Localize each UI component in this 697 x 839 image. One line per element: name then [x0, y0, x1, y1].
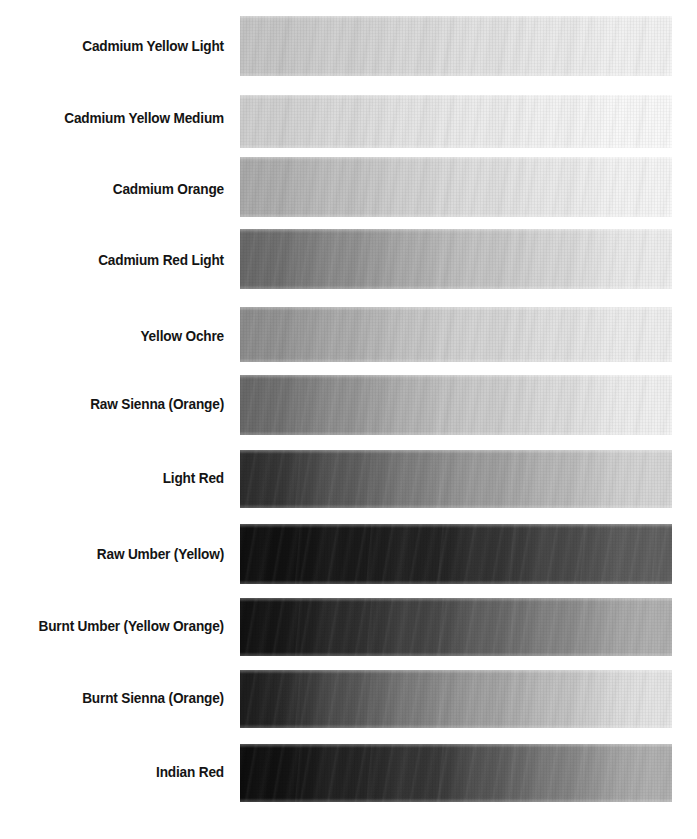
- pigment-label: Cadmium Yellow Medium: [27, 110, 224, 126]
- swatch-texture-edge: [240, 598, 672, 656]
- swatch-gradient: [240, 307, 672, 362]
- pigment-label: Raw Sienna (Orange): [27, 396, 224, 412]
- pigment-value-chart: Cadmium Yellow LightCadmium Yellow Mediu…: [0, 0, 697, 839]
- swatch-yellow-ochre: [240, 307, 672, 362]
- swatch-texture-edge: [240, 95, 672, 148]
- swatch-texture-edge: [240, 670, 672, 728]
- pigment-label: Burnt Umber (Yellow Orange): [27, 618, 224, 634]
- swatch-indian-red: [240, 744, 672, 802]
- swatch-raw-sienna-orange: [240, 375, 672, 435]
- swatch-burnt-umber-yellow-orange: [240, 598, 672, 656]
- swatch-gradient: [240, 95, 672, 148]
- pigment-label: Cadmium Orange: [27, 181, 224, 197]
- swatch-gradient: [240, 16, 672, 76]
- swatch-gradient: [240, 670, 672, 728]
- swatch-texture-edge: [240, 450, 672, 508]
- pigment-label: Yellow Ochre: [27, 328, 224, 344]
- swatch-texture-edge: [240, 229, 672, 289]
- swatch-gradient: [240, 598, 672, 656]
- swatch-cadmium-orange: [240, 157, 672, 217]
- swatch-texture-edge: [240, 157, 672, 217]
- swatch-texture-edge: [240, 375, 672, 435]
- swatch-cadmium-red-light: [240, 229, 672, 289]
- swatch-gradient: [240, 524, 672, 584]
- pigment-label: Indian Red: [27, 764, 224, 780]
- swatch-gradient: [240, 744, 672, 802]
- swatch-cadmium-yellow-medium: [240, 95, 672, 148]
- swatch-light-red: [240, 450, 672, 508]
- swatch-texture-edge: [240, 307, 672, 362]
- swatch-gradient: [240, 375, 672, 435]
- swatch-cadmium-yellow-light: [240, 16, 672, 76]
- pigment-label: Cadmium Red Light: [27, 252, 224, 268]
- swatch-gradient: [240, 450, 672, 508]
- swatch-burnt-sienna-orange: [240, 670, 672, 728]
- pigment-label: Raw Umber (Yellow): [27, 546, 224, 562]
- swatch-gradient: [240, 229, 672, 289]
- pigment-label: Cadmium Yellow Light: [27, 38, 224, 54]
- swatch-texture-edge: [240, 16, 672, 76]
- swatch-raw-umber-yellow: [240, 524, 672, 584]
- swatch-texture-edge: [240, 524, 672, 584]
- pigment-label: Light Red: [27, 470, 224, 486]
- swatch-texture-edge: [240, 744, 672, 802]
- pigment-label: Burnt Sienna (Orange): [27, 690, 224, 706]
- swatch-gradient: [240, 157, 672, 217]
